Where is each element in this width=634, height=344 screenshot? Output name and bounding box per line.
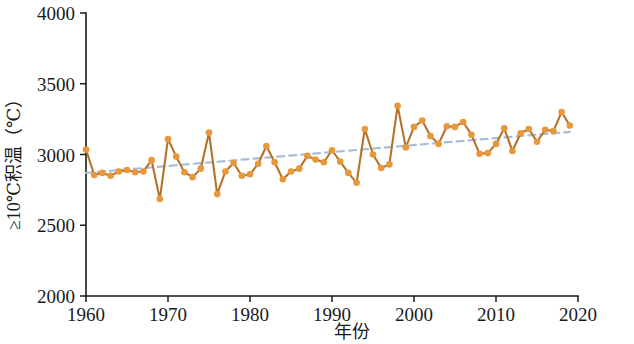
data-point-marker bbox=[337, 158, 344, 165]
data-point-marker bbox=[542, 126, 549, 133]
data-point-marker bbox=[132, 169, 139, 176]
x-tick-label: 1970 bbox=[149, 304, 187, 325]
data-point-marker bbox=[124, 167, 131, 174]
x-tick-label: 1980 bbox=[231, 304, 269, 325]
data-point-marker bbox=[452, 124, 459, 131]
data-point-marker bbox=[140, 168, 147, 175]
x-tick-label: 2010 bbox=[477, 304, 515, 325]
data-point-marker bbox=[403, 144, 410, 151]
data-point-marker bbox=[444, 123, 451, 130]
axis-spines bbox=[86, 13, 578, 296]
data-point-marker bbox=[189, 174, 196, 181]
y-axis-ticks: 20002500300035004000 bbox=[37, 3, 86, 307]
y-tick-label: 2500 bbox=[37, 215, 75, 236]
y-axis-title: ≥10℃积温（℃） bbox=[4, 90, 24, 230]
data-point-marker bbox=[255, 160, 262, 167]
linear-trend-line bbox=[86, 132, 570, 173]
data-point-marker bbox=[378, 165, 385, 172]
data-point-marker bbox=[435, 141, 442, 148]
y-tick-label: 3000 bbox=[37, 145, 75, 166]
data-point-marker bbox=[345, 170, 352, 177]
data-point-marker bbox=[567, 122, 574, 129]
data-point-marker bbox=[485, 150, 492, 157]
data-point-marker bbox=[394, 102, 401, 109]
data-point-marker bbox=[91, 172, 98, 179]
data-point-marker bbox=[370, 151, 377, 158]
data-point-marker bbox=[288, 168, 295, 175]
data-point-marker bbox=[476, 150, 483, 157]
data-point-marker bbox=[509, 148, 516, 155]
data-point-marker bbox=[411, 124, 418, 131]
data-point-marker bbox=[173, 153, 180, 160]
data-point-marker bbox=[116, 168, 123, 175]
data-point-marker bbox=[83, 146, 90, 153]
data-point-marker bbox=[165, 136, 172, 143]
data-point-marker bbox=[427, 133, 434, 140]
x-tick-label: 1960 bbox=[67, 304, 105, 325]
data-point-marker bbox=[517, 130, 524, 137]
data-point-marker bbox=[271, 159, 278, 166]
data-point-marker bbox=[148, 157, 155, 164]
data-point-marker bbox=[534, 138, 541, 145]
data-point-marker bbox=[526, 126, 533, 133]
data-point-marker bbox=[386, 161, 393, 168]
data-point-marker bbox=[206, 129, 213, 136]
data-point-marker bbox=[460, 119, 467, 126]
data-point-marker bbox=[107, 172, 114, 179]
data-point-marker bbox=[296, 165, 303, 172]
data-point-marker bbox=[362, 126, 369, 133]
chart-figure: 20002500300035004000 1960197019801990200… bbox=[0, 0, 634, 344]
data-point-marker bbox=[321, 159, 328, 166]
trend-line-series bbox=[86, 132, 570, 173]
data-point-marker bbox=[493, 141, 500, 148]
data-point-marker bbox=[99, 170, 106, 177]
data-point-marker bbox=[198, 165, 205, 172]
data-point-marker bbox=[558, 109, 565, 116]
data-point-marker bbox=[312, 156, 319, 163]
data-point-marker bbox=[501, 125, 508, 132]
x-axis-title: 年份 bbox=[334, 322, 370, 342]
data-point-marker bbox=[550, 128, 557, 135]
accumulated-temperature-line-chart: 20002500300035004000 1960197019801990200… bbox=[0, 0, 634, 344]
y-tick-label: 3500 bbox=[37, 74, 75, 95]
data-point-marker bbox=[157, 196, 164, 203]
data-point-marker bbox=[419, 117, 426, 124]
y-tick-label: 4000 bbox=[37, 3, 75, 24]
data-point-marker bbox=[214, 191, 221, 198]
data-point-marker bbox=[468, 131, 475, 138]
data-point-marker bbox=[222, 168, 229, 175]
data-point-marker bbox=[329, 147, 336, 154]
data-point-marker bbox=[353, 180, 360, 187]
x-tick-label: 2000 bbox=[395, 304, 433, 325]
data-point-marker bbox=[247, 171, 254, 178]
data-point-marker bbox=[263, 143, 270, 150]
x-axis-ticks: 1960197019801990200020102020 bbox=[67, 296, 597, 325]
data-point-marker bbox=[239, 172, 246, 179]
data-point-marker bbox=[181, 169, 188, 176]
x-tick-label: 2020 bbox=[559, 304, 597, 325]
data-point-marker bbox=[304, 153, 311, 160]
data-point-marker bbox=[230, 160, 237, 167]
chart-axes bbox=[86, 13, 578, 296]
data-point-marker bbox=[280, 176, 287, 183]
